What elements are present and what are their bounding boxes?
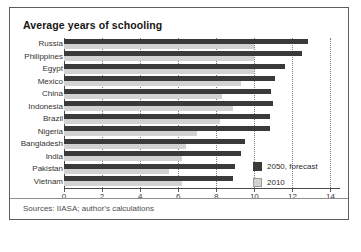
chart-title: Average years of schooling (23, 19, 162, 31)
bar-2010 (64, 81, 241, 86)
bar-2010 (64, 94, 222, 99)
x-tick-label-2: 2 (100, 192, 104, 201)
bar-2010 (64, 44, 254, 49)
bar-2010 (64, 119, 220, 124)
bar-group (64, 101, 340, 113)
legend: 2050, forecast2010 (253, 160, 318, 192)
legend-item-forecast: 2050, forecast (253, 160, 318, 173)
legend-label-past: 2010 (267, 178, 285, 187)
bar-group (64, 39, 340, 51)
category-label-india: India (11, 152, 63, 161)
x-tick-label-6: 6 (176, 192, 180, 201)
category-label-china: China (11, 89, 63, 98)
category-label-egypt: Egypt (11, 64, 63, 73)
bar-2010 (64, 56, 254, 61)
x-tick-label-12: 12 (288, 192, 297, 201)
bar-group (64, 76, 340, 88)
category-label-bangladesh: Bangladesh (11, 139, 63, 148)
bar-2010 (64, 169, 169, 174)
legend-label-forecast: 2050, forecast (267, 162, 318, 171)
bar-2010 (64, 131, 197, 136)
x-tick-label-14: 14 (326, 192, 335, 201)
bar-2010 (64, 156, 182, 161)
bar-2010 (64, 144, 186, 149)
category-label-russia: Russia (11, 39, 63, 48)
category-label-vietnam: Vietnam (11, 177, 63, 186)
category-label-indonesia: Indonesia (11, 102, 63, 111)
category-label-brazil: Brazil (11, 114, 63, 123)
bar-2010 (64, 106, 233, 111)
category-label-pakistan: Pakistan (11, 164, 63, 173)
legend-item-past: 2010 (253, 176, 318, 189)
legend-swatch-past (253, 178, 262, 187)
bar-group (64, 89, 340, 101)
bar-group (64, 126, 340, 138)
bar-group (64, 64, 340, 76)
bar-2010 (64, 181, 182, 186)
x-tick-label-8: 8 (214, 192, 218, 201)
x-tick-label-4: 4 (138, 192, 142, 201)
bar-group (64, 51, 340, 63)
category-axis-labels: RussiaPhilippinesEgyptMexicoChinaIndones… (10, 38, 63, 188)
bar-group (64, 114, 340, 126)
category-label-philippines: Philippines (11, 52, 63, 61)
bar-2010 (64, 69, 254, 74)
legend-swatch-forecast (253, 162, 262, 171)
source-note: Sources: IIASA; author's calculations (23, 204, 154, 213)
bar-group (64, 139, 340, 151)
x-tick-label-0: 0 (62, 192, 66, 201)
category-label-nigeria: Nigeria (11, 127, 63, 136)
category-label-mexico: Mexico (11, 77, 63, 86)
source-divider (10, 198, 348, 199)
figure-panel: Average years of schooling RussiaPhilipp… (9, 7, 349, 220)
x-tick-label-10: 10 (250, 192, 259, 201)
